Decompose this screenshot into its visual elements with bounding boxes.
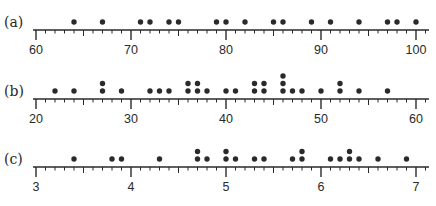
tick-label: 100	[406, 43, 427, 57]
data-dot	[147, 88, 152, 93]
data-dot	[356, 19, 361, 24]
data-dot	[204, 88, 209, 93]
data-dot	[299, 88, 304, 93]
data-dot	[223, 88, 228, 93]
tick-label: 60	[29, 43, 43, 57]
data-dot	[185, 88, 190, 93]
tick-label: 7	[413, 180, 420, 194]
data-dot	[347, 149, 352, 154]
data-dot	[252, 88, 257, 93]
data-dot	[280, 73, 285, 78]
panel-label: (a)	[4, 14, 23, 30]
data-dot	[185, 81, 190, 86]
data-dot	[299, 156, 304, 161]
data-dot	[252, 156, 257, 161]
data-dot	[242, 19, 247, 24]
data-dot	[337, 88, 342, 93]
data-dot	[138, 19, 143, 24]
tick-label: 20	[29, 112, 43, 126]
data-dot	[290, 88, 295, 93]
data-dot	[261, 88, 266, 93]
data-dot	[280, 81, 285, 86]
data-dot	[119, 88, 124, 93]
dot-plot-c: (c)34567	[4, 149, 429, 194]
data-dot	[337, 156, 342, 161]
data-dot	[356, 156, 361, 161]
data-dot	[157, 156, 162, 161]
data-dot	[223, 19, 228, 24]
dot-plot-b: (b)2030405060	[4, 73, 429, 126]
data-dot	[109, 156, 114, 161]
tick-label: 5	[223, 180, 230, 194]
data-dot	[100, 88, 105, 93]
data-dot	[318, 88, 323, 93]
data-dot	[204, 156, 209, 161]
panel-label: (b)	[4, 83, 24, 99]
dot-plot-a: (a)60708090100	[4, 14, 429, 57]
data-dot	[375, 156, 380, 161]
data-dot	[328, 19, 333, 24]
tick-label: 4	[128, 180, 135, 194]
dot-plots: (a)60708090100 (b)2030405060 (c)34567	[0, 0, 436, 206]
data-dot	[404, 156, 409, 161]
data-dot	[195, 81, 200, 86]
tick-label: 90	[314, 43, 328, 57]
data-dot	[261, 81, 266, 86]
data-dot	[233, 156, 238, 161]
data-dot	[195, 156, 200, 161]
data-dot	[356, 88, 361, 93]
data-dot	[119, 156, 124, 161]
data-dot	[413, 19, 418, 24]
data-dot	[280, 19, 285, 24]
data-dot	[147, 19, 152, 24]
data-dot	[261, 156, 266, 161]
tick-label: 50	[314, 112, 328, 126]
data-dot	[223, 149, 228, 154]
tick-label: 40	[219, 112, 233, 126]
tick-label: 3	[33, 180, 40, 194]
panel-label: (c)	[4, 151, 23, 167]
data-dot	[176, 19, 181, 24]
data-dot	[290, 156, 295, 161]
data-dot	[280, 88, 285, 93]
data-dot	[223, 156, 228, 161]
data-dot	[52, 88, 57, 93]
data-dot	[347, 156, 352, 161]
tick-label: 30	[124, 112, 138, 126]
data-dot	[71, 156, 76, 161]
data-dot	[166, 88, 171, 93]
data-dot	[195, 149, 200, 154]
data-dot	[328, 156, 333, 161]
data-dot	[100, 19, 105, 24]
tick-label: 70	[124, 43, 138, 57]
data-dot	[195, 88, 200, 93]
data-dot	[271, 19, 276, 24]
tick-label: 60	[409, 112, 423, 126]
data-dot	[385, 88, 390, 93]
data-dot	[157, 88, 162, 93]
data-dot	[71, 19, 76, 24]
tick-label: 6	[318, 180, 325, 194]
data-dot	[233, 88, 238, 93]
data-dot	[214, 19, 219, 24]
data-dot	[385, 19, 390, 24]
data-dot	[100, 81, 105, 86]
data-dot	[309, 19, 314, 24]
data-dot	[71, 88, 76, 93]
data-dot	[394, 19, 399, 24]
data-dot	[299, 149, 304, 154]
tick-label: 80	[219, 43, 233, 57]
data-dot	[252, 81, 257, 86]
data-dot	[337, 81, 342, 86]
data-dot	[166, 19, 171, 24]
